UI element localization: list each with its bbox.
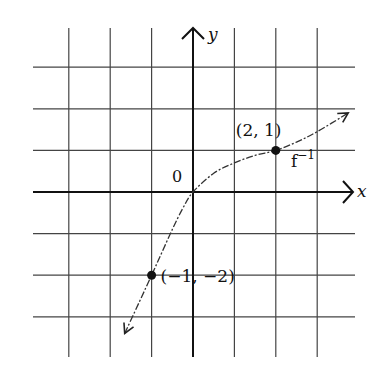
function-graph: (2, 1)(−1, −2) x y 0 f−1: [0, 0, 387, 376]
point-marker-0: [271, 146, 280, 155]
series-label-superscript: −1: [297, 148, 315, 162]
y-axis-label: y: [207, 24, 218, 44]
origin-label: 0: [172, 167, 182, 186]
points-group: (2, 1)(−1, −2): [147, 120, 281, 286]
series-label-f-inverse: f−1: [291, 148, 315, 171]
curve-group: [124, 113, 348, 333]
curve-f-inverse: [125, 113, 349, 333]
point-label-0: (2, 1): [236, 120, 282, 140]
point-marker-1: [147, 271, 156, 280]
point-label-1: (−1, −2): [161, 266, 235, 286]
curve-arrowhead-end: [337, 113, 348, 123]
x-axis-label: x: [357, 181, 367, 201]
